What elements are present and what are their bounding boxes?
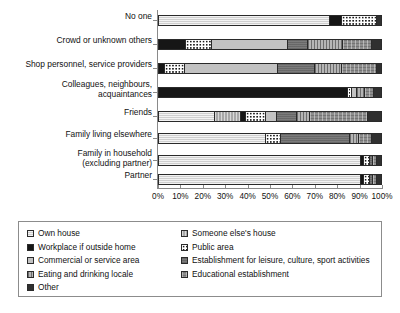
legend-label: Workplace if outside home bbox=[38, 243, 136, 252]
legend-label: Eating and drinking locale bbox=[38, 270, 133, 279]
x-axis-tick-label: 40% bbox=[239, 192, 255, 202]
bar-segment bbox=[368, 112, 381, 121]
legend-item: Someone else's house bbox=[181, 227, 379, 241]
legend-swatch-icon bbox=[27, 244, 34, 251]
category-label: No one bbox=[0, 12, 152, 22]
x-axis-tick-label: 90% bbox=[351, 192, 367, 202]
bar-row bbox=[158, 63, 382, 74]
legend-swatch-icon bbox=[181, 244, 188, 251]
y-axis-tick bbox=[153, 160, 157, 161]
x-axis-tick-label: 100% bbox=[372, 192, 393, 202]
legend-swatch-icon bbox=[181, 257, 188, 264]
legend-label: Own house bbox=[38, 229, 80, 238]
x-axis-tick bbox=[248, 185, 249, 189]
legend-label: Educational establishment bbox=[192, 270, 289, 279]
x-axis-tick-label: 70% bbox=[307, 192, 323, 202]
bar-segment bbox=[159, 134, 266, 143]
bar-segment bbox=[342, 16, 376, 25]
legend-item: Commercial or service area bbox=[27, 254, 177, 268]
bar-segment bbox=[342, 64, 376, 73]
legend-label: Someone else's house bbox=[192, 229, 276, 238]
bar-segment bbox=[377, 175, 381, 184]
bar-row bbox=[158, 87, 382, 98]
bar-segment bbox=[159, 40, 186, 49]
legend-label: Public area bbox=[192, 243, 234, 252]
plot-area: No oneCrowd or unknown othersShop person… bbox=[0, 0, 400, 212]
category-label: Family living elsewhere bbox=[0, 130, 152, 140]
x-axis-tick-label: 10% bbox=[172, 192, 188, 202]
bar-row bbox=[158, 133, 382, 144]
legend-item: Educational establishment bbox=[181, 268, 379, 282]
legend-item: Workplace if outside home bbox=[27, 241, 177, 255]
x-axis-tick-label: 20% bbox=[195, 192, 211, 202]
legend-label: Other bbox=[38, 283, 59, 292]
bar-segment bbox=[165, 64, 185, 73]
category-axis-labels: No oneCrowd or unknown othersShop person… bbox=[0, 10, 152, 185]
bar-segment bbox=[277, 112, 297, 121]
bar-segment bbox=[377, 16, 381, 25]
x-axis-tick-labels: 0%10%20%30%40%50%60%70%80%90%100% bbox=[0, 192, 400, 206]
x-axis-tick bbox=[292, 185, 293, 189]
bar-row bbox=[158, 15, 382, 26]
y-axis-tick bbox=[153, 92, 157, 93]
category-label: Shop personnel, service providers bbox=[0, 60, 152, 70]
bar-segment bbox=[297, 112, 310, 121]
legend-item: Eating and drinking locale bbox=[27, 268, 177, 282]
bar-segment bbox=[365, 88, 374, 97]
bar-row bbox=[158, 111, 382, 122]
legend-label: Establishment for leisure, culture, spor… bbox=[192, 256, 370, 265]
bar-segment bbox=[159, 16, 330, 25]
y-axis-tick bbox=[153, 116, 157, 117]
legend-item: Public area bbox=[181, 241, 379, 255]
bar-segment bbox=[374, 88, 381, 97]
legend-item: Other bbox=[27, 281, 177, 295]
bar-segment bbox=[246, 112, 266, 121]
bar-segment bbox=[288, 40, 308, 49]
x-axis-tick bbox=[315, 185, 316, 189]
bar-segment bbox=[212, 40, 287, 49]
x-axis-tick bbox=[360, 185, 361, 189]
bar-segment bbox=[377, 64, 381, 73]
bar-segment bbox=[372, 40, 381, 49]
x-axis-tick-label: 80% bbox=[329, 192, 345, 202]
y-axis-tick bbox=[153, 68, 157, 69]
y-axis-tick bbox=[153, 20, 157, 21]
category-label: Family in household (excluding partner) bbox=[0, 149, 152, 168]
x-axis-tick bbox=[203, 185, 204, 189]
chart-legend: Own houseWorkplace if outside homeCommer… bbox=[18, 221, 382, 297]
legend-column-left: Own houseWorkplace if outside homeCommer… bbox=[27, 227, 177, 295]
category-label: Friends bbox=[0, 108, 152, 118]
legend-label: Commercial or service area bbox=[38, 256, 139, 265]
x-axis-tick bbox=[382, 185, 383, 189]
bar-segment bbox=[308, 40, 344, 49]
bar-row bbox=[158, 174, 382, 185]
legend-swatch-icon bbox=[181, 271, 188, 278]
bar-segment bbox=[159, 175, 361, 184]
bar-segment bbox=[159, 156, 361, 165]
x-axis-tick-label: 0% bbox=[152, 192, 164, 202]
bar-segment bbox=[377, 156, 381, 165]
category-label: Partner bbox=[0, 171, 152, 181]
legend-swatch-icon bbox=[27, 257, 34, 264]
x-axis-tick bbox=[158, 185, 159, 189]
legend-item: Own house bbox=[27, 227, 177, 241]
bar-segment bbox=[343, 40, 372, 49]
x-axis-tick bbox=[180, 185, 181, 189]
bar-segment bbox=[359, 134, 372, 143]
x-axis-tick bbox=[225, 185, 226, 189]
bar-segment bbox=[159, 88, 348, 97]
x-axis-tick-label: 30% bbox=[217, 192, 233, 202]
y-axis-tick bbox=[153, 44, 157, 45]
bar-segment bbox=[159, 112, 215, 121]
bar-segment bbox=[215, 112, 242, 121]
legend-swatch-icon bbox=[27, 284, 34, 291]
y-axis-tick bbox=[153, 179, 157, 180]
bar-segment bbox=[315, 64, 342, 73]
x-axis-tick bbox=[270, 185, 271, 189]
bar-segment bbox=[310, 112, 368, 121]
bar-row bbox=[158, 155, 382, 166]
bar-segment bbox=[278, 64, 316, 73]
legend-column-right: Someone else's housePublic areaEstablish… bbox=[181, 227, 379, 281]
x-axis-tick-label: 50% bbox=[262, 192, 278, 202]
bar-segment bbox=[281, 134, 350, 143]
